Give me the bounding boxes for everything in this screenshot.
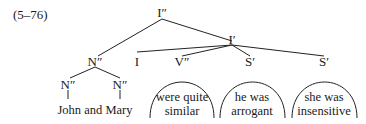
node-subject-left: N″ [61, 77, 76, 92]
leaf-vp-line2: similar [165, 104, 201, 118]
node-s1: S′ [245, 54, 255, 69]
syntax-tree-diagram: (5–76) I″ I′ N″ I V″ S′ S′ N″ N″ John an… [0, 0, 366, 124]
node-root: I″ [157, 5, 167, 20]
node-infl: I [135, 54, 139, 69]
tree-edges [68, 19, 324, 99]
node-vp: V″ [175, 54, 190, 69]
leaf-vp-line1: were quite [156, 90, 209, 104]
node-subject-right: N″ [113, 77, 128, 92]
node-s2: S′ [319, 54, 329, 69]
leaf-s2-line1: she was [304, 90, 343, 104]
node-ibar: I′ [228, 32, 235, 47]
leaf-s1-line2: arrogant [231, 104, 273, 118]
example-number: (5–76) [13, 7, 48, 22]
node-subject: N″ [88, 54, 103, 69]
leaf-subject: John and Mary [58, 103, 134, 117]
leaf-s2-line2: insensitive [297, 104, 351, 118]
leaf-s1-line1: he was [235, 90, 269, 104]
